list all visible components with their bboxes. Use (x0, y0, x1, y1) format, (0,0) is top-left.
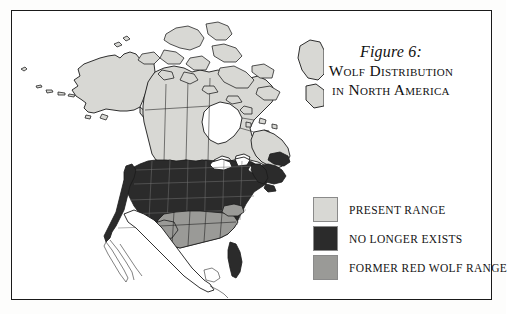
north-america-map: .pr{fill:#d8d8d4;stroke:#1a1a1a;stroke-w… (14, 14, 324, 298)
figure-title-line-2: in North America (300, 80, 482, 99)
legend-label-present-range: Present Range (349, 204, 446, 216)
legend-swatch-present-range (313, 197, 338, 222)
map-legend: Present Range No Longer Exists Former Re… (313, 197, 493, 284)
figure-title-line-1: Wolf Distribution (300, 61, 482, 80)
map-container: .pr{fill:#d8d8d4;stroke:#1a1a1a;stroke-w… (14, 14, 324, 298)
figure-title-block: Figure 6: Wolf Distribution in North Ame… (300, 42, 482, 99)
aleutian-islands (21, 67, 75, 97)
legend-swatch-no-longer-exists (313, 226, 338, 251)
legend-item-no-longer-exists: No Longer Exists (313, 226, 493, 251)
figure-number-label: Figure 6: (300, 42, 482, 61)
legend-label-former-red-wolf-range: Former Red Wolf Range (349, 262, 507, 274)
legend-label-no-longer-exists: No Longer Exists (349, 233, 463, 245)
legend-swatch-former-red-wolf-range (313, 255, 338, 280)
legend-item-present-range: Present Range (313, 197, 493, 222)
legend-item-former-red-wolf-range: Former Red Wolf Range (313, 255, 493, 280)
